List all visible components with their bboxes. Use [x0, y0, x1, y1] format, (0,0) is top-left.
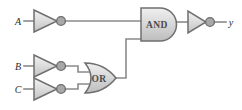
inverter-output-bubble-icon: [206, 18, 215, 27]
circuit-canvas: OR AND A B C y: [0, 0, 242, 110]
inverter-gate-c[interactable]: [34, 78, 65, 100]
inverter-c-bubble-icon: [57, 85, 66, 94]
and-gate[interactable]: AND: [141, 8, 177, 41]
output-label-y: y: [228, 17, 234, 28]
inverter-output-triangle: [188, 11, 206, 33]
wire-group: [24, 21, 226, 89]
inverter-b-triangle: [34, 55, 57, 77]
inverter-gate-output[interactable]: [188, 11, 214, 33]
inverter-a-bubble-icon: [57, 17, 66, 26]
or-gate-label: OR: [91, 74, 106, 84]
logic-circuit-figure: OR AND A B C y: [0, 0, 242, 110]
and-gate-label: AND: [146, 20, 168, 30]
inverter-a-triangle: [34, 10, 57, 32]
input-label-c: C: [15, 84, 22, 95]
input-label-b: B: [15, 61, 21, 72]
inverter-c-triangle: [34, 78, 57, 100]
inverter-gate-a[interactable]: [34, 10, 65, 32]
wire-inverter-c-to-or: [66, 84, 89, 89]
wire-or-to-and: [116, 39, 141, 78]
inverter-b-bubble-icon: [57, 62, 66, 71]
input-label-a: A: [14, 16, 22, 27]
label-group: A B C y: [14, 16, 234, 95]
inverter-gate-b[interactable]: [34, 55, 65, 77]
wire-inverter-b-to-or: [66, 66, 89, 72]
or-gate[interactable]: OR: [85, 63, 116, 93]
